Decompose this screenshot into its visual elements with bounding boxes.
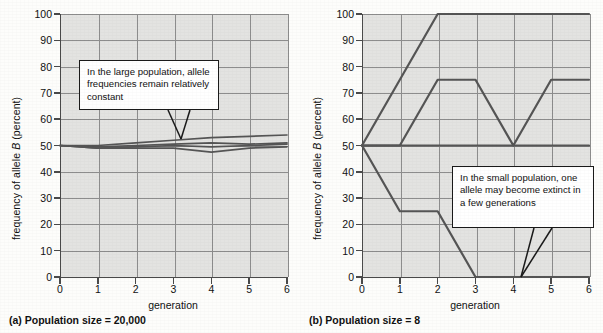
y-tick-label: 50 [26, 140, 52, 152]
y-tick-label: 90 [26, 34, 52, 46]
y-tick-mark [54, 197, 60, 199]
x-tick-mark [475, 278, 477, 284]
y-tick-label: 60 [26, 113, 52, 125]
y-tick-label: 90 [328, 34, 354, 46]
gridline-vertical [175, 14, 176, 277]
panel-a-x-axis-label: generation [113, 299, 233, 311]
panel-a-y-axis-label: frequency of allele B (percent) [10, 40, 24, 240]
y-tick-label: 30 [26, 192, 52, 204]
y-tick-mark [54, 66, 60, 68]
y-tick-label: 0 [26, 271, 52, 283]
x-tick-mark [513, 278, 515, 284]
x-tick-label: 0 [48, 283, 72, 295]
y-tick-mark [54, 13, 60, 15]
x-tick-mark [550, 278, 552, 284]
x-tick-label: 3 [162, 283, 186, 295]
y-tick-mark [356, 118, 362, 120]
x-tick-mark [399, 278, 401, 284]
y-tick-mark [54, 118, 60, 120]
y-tick-label: 0 [328, 271, 354, 283]
y-tick-label: 70 [328, 87, 354, 99]
gridline-vertical [250, 14, 251, 277]
x-tick-mark [211, 278, 213, 284]
gridline-vertical [590, 14, 591, 277]
y-tick-mark [356, 171, 362, 173]
gridline-vertical [552, 14, 553, 277]
x-tick-label: 2 [426, 283, 450, 295]
panel-b-plot-area [362, 14, 590, 278]
y-tick-mark [54, 40, 60, 42]
y-tick-label: 20 [328, 218, 354, 230]
y-tick-label: 70 [26, 87, 52, 99]
x-tick-mark [59, 278, 61, 284]
y-tick-label: 80 [328, 61, 354, 73]
x-tick-mark [286, 278, 288, 284]
y-tick-label: 10 [26, 245, 52, 257]
y-tick-mark [54, 171, 60, 173]
panel-b-y-axis-label: frequency of allele B (percent) [311, 40, 325, 240]
y-tick-mark [356, 250, 362, 252]
panel-a-large-population: frequency of allele B (percent) generati… [0, 0, 301, 333]
gridline-vertical [99, 14, 100, 277]
x-tick-mark [135, 278, 137, 284]
gridline-vertical [477, 14, 478, 277]
y-tick-label: 30 [328, 192, 354, 204]
x-tick-label: 4 [501, 283, 525, 295]
x-tick-label: 0 [350, 283, 374, 295]
panel-a-y-axis-label-italic: B [10, 143, 22, 150]
x-tick-mark [173, 278, 175, 284]
x-tick-mark [588, 278, 590, 284]
gridline-vertical [439, 14, 440, 277]
panel-b-x-axis-label: generation [415, 299, 535, 311]
y-tick-mark [356, 92, 362, 94]
y-tick-label: 100 [26, 8, 52, 20]
gridline-vertical [288, 14, 289, 277]
gridline-vertical [514, 14, 515, 277]
y-tick-mark [356, 66, 362, 68]
panel-b-y-axis-label-italic: B [311, 143, 323, 150]
y-tick-mark [54, 145, 60, 147]
y-tick-mark [356, 13, 362, 15]
y-tick-label: 10 [328, 245, 354, 257]
y-tick-label: 20 [26, 218, 52, 230]
x-tick-label: 3 [464, 283, 488, 295]
x-tick-mark [97, 278, 99, 284]
panel-b-caption: (b) Population size = 8 [309, 314, 420, 326]
y-tick-label: 60 [328, 113, 354, 125]
gridline-vertical [137, 14, 138, 277]
y-tick-label: 40 [26, 166, 52, 178]
x-tick-label: 2 [124, 283, 148, 295]
y-tick-mark [356, 40, 362, 42]
x-tick-label: 6 [275, 283, 299, 295]
gridline-vertical [212, 14, 213, 277]
y-tick-mark [54, 224, 60, 226]
x-tick-mark [361, 278, 363, 284]
x-tick-label: 4 [199, 283, 223, 295]
x-tick-mark [437, 278, 439, 284]
y-tick-mark [356, 145, 362, 147]
x-tick-label: 1 [388, 283, 412, 295]
y-tick-label: 50 [328, 140, 354, 152]
x-tick-label: 5 [539, 283, 563, 295]
x-tick-label: 5 [237, 283, 261, 295]
x-tick-mark [248, 278, 250, 284]
x-tick-label: 1 [86, 283, 110, 295]
panel-a-plot-area [60, 14, 288, 278]
y-tick-mark [54, 92, 60, 94]
y-tick-mark [54, 250, 60, 252]
y-tick-label: 80 [26, 61, 52, 73]
panel-a-caption: (a) Population size = 20,000 [9, 314, 146, 326]
x-tick-label: 6 [577, 283, 601, 295]
y-tick-mark [356, 197, 362, 199]
panel-b-annotation-callout: In the small population, one allele may … [452, 166, 594, 228]
y-tick-label: 40 [328, 166, 354, 178]
gridline-vertical [401, 14, 402, 277]
panel-a-annotation-callout: In the large population, allele frequenc… [79, 60, 219, 110]
y-tick-mark [356, 224, 362, 226]
genetic-drift-figure: frequency of allele B (percent) generati… [0, 0, 603, 333]
y-tick-label: 100 [328, 8, 354, 20]
